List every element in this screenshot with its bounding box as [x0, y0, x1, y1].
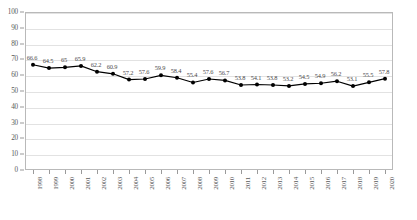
- data-point-marker: [335, 79, 339, 83]
- y-tick-mark: [20, 106, 24, 107]
- x-tick-label: 2013: [276, 177, 284, 190]
- data-label: 53.1: [347, 75, 357, 82]
- x-tick-mark: [241, 170, 242, 174]
- x-tick-mark: [145, 170, 146, 174]
- data-point-marker: [271, 83, 275, 87]
- x-tick-mark: [129, 170, 130, 174]
- x-tick-label: 2003: [116, 177, 124, 190]
- y-tick-label: 70: [11, 55, 18, 63]
- x-tick-label: 1999: [52, 177, 60, 190]
- y-tick-label: 30: [11, 119, 18, 127]
- x-tick-label: 2002: [100, 177, 108, 190]
- x-tick-mark: [385, 170, 386, 174]
- x-tick-mark: [369, 170, 370, 174]
- data-label: 66.6: [27, 54, 37, 61]
- data-label: 58.4: [171, 67, 181, 74]
- data-label: 59.9: [155, 64, 165, 71]
- data-point-marker: [175, 76, 179, 80]
- x-tick-mark: [113, 170, 114, 174]
- data-point-marker: [319, 81, 323, 85]
- data-point-marker: [367, 80, 371, 84]
- x-tick-mark: [81, 170, 82, 174]
- y-tick-mark: [20, 138, 24, 139]
- x-tick-label: 2019: [372, 177, 380, 190]
- x-tick-label: 2000: [68, 177, 76, 190]
- data-point-marker: [111, 72, 115, 76]
- y-tick-mark: [20, 27, 24, 28]
- x-tick-label: 2005: [148, 177, 156, 190]
- data-label: 64.5: [43, 57, 53, 64]
- data-point-marker: [239, 83, 243, 87]
- x-tick-label: 2007: [180, 177, 188, 190]
- y-tick-mark: [20, 43, 24, 44]
- data-point-marker: [127, 78, 131, 82]
- x-axis: 1998199920002001200220032004200520062007…: [25, 170, 393, 220]
- x-tick-mark: [337, 170, 338, 174]
- y-tick-label: 90: [11, 24, 18, 32]
- x-tick-label: 2020: [388, 177, 396, 190]
- data-point-marker: [191, 80, 195, 84]
- y-tick-label: 0: [15, 166, 18, 174]
- y-tick-label: 80: [11, 40, 18, 48]
- x-tick-mark: [209, 170, 210, 174]
- x-tick-label: 2011: [244, 177, 252, 190]
- y-tick-mark: [20, 91, 24, 92]
- y-tick-label: 100: [8, 8, 18, 16]
- data-label: 55.4: [187, 71, 197, 78]
- x-tick-mark: [193, 170, 194, 174]
- data-point-marker: [159, 73, 163, 77]
- x-tick-mark: [161, 170, 162, 174]
- x-tick-mark: [257, 170, 258, 174]
- x-tick-mark: [273, 170, 274, 174]
- x-tick-mark: [33, 170, 34, 174]
- data-label: 53.8: [235, 74, 245, 81]
- data-point-marker: [303, 82, 307, 86]
- y-tick-label: 20: [11, 134, 18, 142]
- data-label: 57.8: [379, 68, 389, 75]
- data-label: 56.7: [219, 69, 229, 76]
- y-tick-mark: [20, 122, 24, 123]
- data-point-marker: [79, 64, 83, 68]
- y-tick-label: 10: [11, 150, 18, 158]
- data-label: 57.6: [203, 68, 213, 75]
- data-label: 65.9: [75, 55, 85, 62]
- data-label: 62.2: [91, 61, 101, 68]
- data-point-marker: [143, 77, 147, 81]
- data-label: 57.2: [123, 69, 133, 76]
- x-tick-label: 2017: [340, 177, 348, 190]
- data-label: 60.9: [107, 63, 117, 70]
- x-tick-mark: [97, 170, 98, 174]
- data-label: 54.9: [315, 72, 325, 79]
- data-label: 53.2: [283, 75, 293, 82]
- x-tick-label: 2012: [260, 177, 268, 190]
- x-tick-label: 2008: [196, 177, 204, 190]
- x-tick-label: 2015: [308, 177, 316, 190]
- y-tick-mark: [20, 75, 24, 76]
- data-point-marker: [47, 66, 51, 70]
- x-tick-mark: [49, 170, 50, 174]
- x-tick-label: 2001: [84, 177, 92, 190]
- y-tick-mark: [20, 154, 24, 155]
- y-tick-label: 40: [11, 103, 18, 111]
- data-point-marker: [95, 70, 99, 74]
- x-tick-mark: [65, 170, 66, 174]
- x-tick-label: 2014: [292, 177, 300, 190]
- x-tick-label: 2016: [324, 177, 332, 190]
- x-tick-mark: [305, 170, 306, 174]
- data-label: 54.5: [299, 73, 309, 80]
- y-tick-mark: [20, 12, 24, 13]
- x-tick-label: 2018: [356, 177, 364, 190]
- data-point-marker: [223, 78, 227, 82]
- data-point-marker: [287, 84, 291, 88]
- x-tick-mark: [225, 170, 226, 174]
- data-label: 65: [61, 56, 67, 63]
- data-label: 57.6: [139, 68, 149, 75]
- data-point-marker: [255, 83, 259, 87]
- x-tick-label: 2009: [212, 177, 220, 190]
- data-point-marker: [383, 77, 387, 81]
- data-label: 56.2: [331, 70, 341, 77]
- x-tick-mark: [177, 170, 178, 174]
- x-tick-mark: [353, 170, 354, 174]
- data-label: 54.1: [251, 74, 261, 81]
- x-tick-mark: [289, 170, 290, 174]
